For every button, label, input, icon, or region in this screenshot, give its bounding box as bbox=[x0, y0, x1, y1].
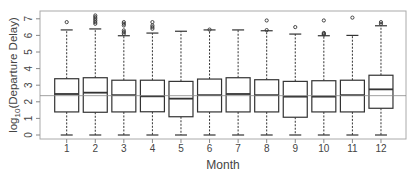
x-tick-label: 8 bbox=[264, 143, 270, 154]
box-month-12 bbox=[369, 21, 393, 135]
x-axis: 123456789101112 bbox=[64, 139, 387, 154]
box-month-2 bbox=[83, 14, 107, 135]
box-month-7 bbox=[226, 30, 250, 135]
boxes bbox=[55, 14, 393, 135]
y-tick-label: 6 bbox=[23, 32, 34, 38]
x-tick-label: 9 bbox=[292, 143, 298, 154]
box-month-6 bbox=[198, 28, 222, 135]
iqr-box bbox=[369, 75, 393, 108]
y-tick-label: 3 bbox=[23, 82, 34, 88]
y-tick-label: 5 bbox=[23, 49, 34, 55]
x-tick-label: 1 bbox=[64, 143, 70, 154]
box-month-9 bbox=[283, 26, 307, 136]
box-month-4 bbox=[140, 21, 164, 135]
outlier-point bbox=[265, 19, 268, 22]
y-tick-label: 4 bbox=[23, 65, 34, 71]
y-tick-label: 0 bbox=[23, 132, 34, 138]
outlier-point bbox=[294, 26, 297, 29]
y-tick-label: 1 bbox=[23, 115, 34, 121]
x-axis-label: Month bbox=[206, 158, 239, 172]
iqr-box bbox=[283, 81, 307, 117]
x-tick-label: 11 bbox=[347, 143, 358, 154]
boxplot-chart: 01234567 123456789101112 Month log10(Dep… bbox=[0, 0, 417, 176]
outlier-point bbox=[65, 21, 68, 24]
box-month-10 bbox=[312, 19, 336, 135]
box-month-1 bbox=[55, 21, 79, 135]
x-tick-label: 5 bbox=[178, 143, 184, 154]
iqr-box bbox=[83, 78, 107, 113]
x-tick-label: 10 bbox=[318, 143, 330, 154]
box-month-5 bbox=[169, 31, 193, 135]
box-month-3 bbox=[112, 21, 136, 135]
x-tick-label: 6 bbox=[207, 143, 213, 154]
x-tick-label: 12 bbox=[375, 143, 387, 154]
y-axis: 01234567 bbox=[23, 16, 40, 138]
outlier-point bbox=[351, 16, 354, 19]
y-tick-label: 7 bbox=[23, 16, 34, 22]
x-tick-label: 3 bbox=[121, 143, 127, 154]
x-tick-label: 2 bbox=[92, 143, 98, 154]
outlier-point bbox=[151, 21, 154, 24]
box-month-8 bbox=[255, 19, 279, 135]
y-tick-label: 2 bbox=[23, 99, 34, 105]
y-axis-label: log10(Departure Delay) bbox=[7, 17, 22, 133]
iqr-box bbox=[112, 80, 136, 112]
outlier-point bbox=[322, 19, 325, 22]
box-month-11 bbox=[340, 16, 364, 135]
iqr-box bbox=[340, 80, 364, 112]
x-tick-label: 7 bbox=[235, 143, 241, 154]
x-tick-label: 4 bbox=[150, 143, 156, 154]
